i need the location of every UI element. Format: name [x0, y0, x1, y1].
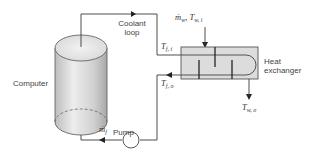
hx-label-line2: exchanger	[264, 66, 301, 75]
heat-exchanger-box	[181, 47, 258, 79]
heat-exchanger-label: Heat exchanger	[264, 57, 301, 75]
arrow-left-icon	[166, 72, 172, 78]
arrow-left-icon	[99, 137, 105, 143]
heat-exchanger-diagram: Coolant loop Computer Heat exchanger Pum…	[0, 0, 313, 161]
coolant-label-line2: loop	[112, 28, 152, 37]
fluid-mass-flow-label: ṁf	[99, 125, 107, 137]
fluid-outlet-temp-label: Tf, o	[161, 79, 173, 91]
water-inlet-label: ṁw, Tw, i	[175, 13, 202, 25]
coolant-loop-label: Coolant loop	[112, 19, 152, 37]
fluid-inlet-temp-label: Tf, i	[161, 42, 172, 54]
coolant-label-line1: Coolant	[112, 19, 152, 28]
hx-label-line1: Heat	[264, 57, 301, 66]
water-outlet-temp-label: Tw, o	[242, 103, 256, 115]
computer-cylinder	[55, 35, 107, 135]
arrow-right-icon	[131, 11, 136, 17]
computer-label: Computer	[13, 79, 48, 88]
pump-label: Pump	[113, 128, 134, 137]
